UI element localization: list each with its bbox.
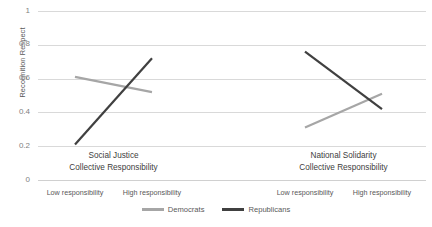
chart-legend: DemocratsRepublicans [0, 205, 432, 214]
series-line-democrats [305, 94, 382, 128]
x-axis-tick-label: Low responsibility [35, 188, 115, 197]
panel-title-line-1: Social Justice [54, 150, 174, 162]
recognition-respect-line-chart: Recognition Respect 00.20.40.60.81 Socia… [0, 0, 432, 227]
legend-label: Democrats [168, 205, 205, 214]
legend-item-republicans: Republicans [222, 205, 290, 214]
x-axis-tick-label: High responsibility [342, 188, 422, 197]
panel-title: National SolidarityCollective Responsibi… [284, 150, 404, 173]
panel-title-line-2: Collective Responsibility [54, 162, 174, 174]
legend-label: Republicans [248, 205, 290, 214]
panel-title-line-1: National Solidarity [284, 150, 404, 162]
series-line-republicans [75, 58, 152, 144]
legend-swatch [222, 208, 244, 210]
x-axis-tick-label: High responsibility [112, 188, 192, 197]
series-line-democrats [75, 77, 152, 92]
legend-swatch [142, 208, 164, 210]
panel-title: Social JusticeCollective Responsibility [54, 150, 174, 173]
series-line-republicans [305, 52, 382, 109]
legend-item-democrats: Democrats [142, 205, 205, 214]
x-axis-tick-label: Low responsibility [265, 188, 345, 197]
panel-title-line-2: Collective Responsibility [284, 162, 404, 174]
